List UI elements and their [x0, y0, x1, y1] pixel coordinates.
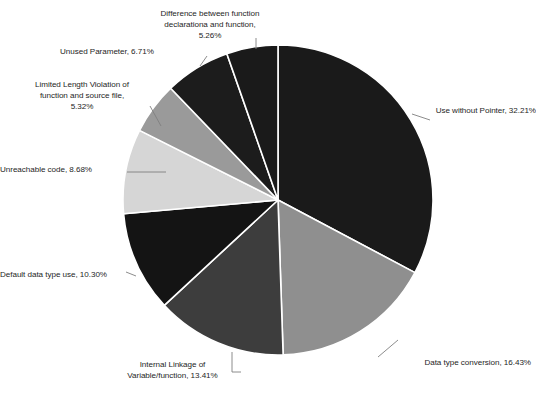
pie-label-data-type-conversion: Data type conversion, 16.43%	[376, 357, 531, 368]
pie-slice-group	[123, 45, 433, 355]
leader-line	[126, 272, 136, 276]
pie-label-default-data-type-use: Default data type use, 10.30%	[0, 269, 125, 280]
pie-label-unreachable-code: Unreachable code, 8.68%	[0, 164, 126, 175]
pie-label-use-without-pointer: Use without Pointer, 32.21%	[416, 105, 536, 116]
pie-label-difference-between-function-declarationa-and-function: Difference between function declarationa…	[130, 8, 290, 41]
pie-label-limited-length-violation-of-function-and-source-file: Limited Length Violation of function and…	[12, 79, 152, 112]
pie-label-internal-linkage-of-variable-function: Internal Linkage of Variable/function, 1…	[105, 359, 240, 381]
pie-label-unused-parameter: Unused Parameter, 6.71%	[60, 46, 205, 57]
leader-line	[378, 340, 398, 357]
